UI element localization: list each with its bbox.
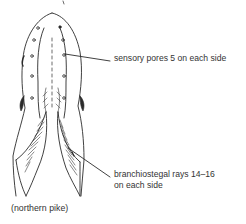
top-edge-mark: [63, 1, 64, 4]
branchiostegal-rays-label-line2: on each side: [114, 180, 215, 191]
sensory-pores-label: sensory pores 5 on each side: [114, 53, 226, 64]
eye-left: [20, 96, 24, 111]
eye-right: [80, 96, 84, 111]
pike-ventral-diagram: sensory pores 5 on each side branchioste…: [0, 0, 246, 224]
figure-caption: (northern pike): [11, 203, 68, 213]
sensory-pores-right: [59, 26, 66, 100]
branchiostegal-rays-label: branchiostegal rays 14–16 on each side: [114, 169, 215, 191]
inner-jaw-left: [38, 28, 44, 118]
rays-left: [25, 118, 44, 172]
pores-leader-line: [65, 54, 110, 61]
head-outline: [13, 13, 84, 196]
rays-leader-line: [68, 148, 110, 177]
branchiostegal-rays-label-line1: branchiostegal rays 14–16: [114, 169, 215, 180]
